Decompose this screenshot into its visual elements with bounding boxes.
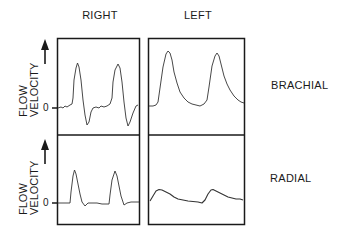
waveform-brachial-left bbox=[149, 51, 244, 106]
up-arrow-icon bbox=[41, 39, 49, 64]
waveform-radial-left bbox=[150, 190, 243, 204]
panel-frame-right bbox=[58, 39, 140, 225]
waveform-radial-right bbox=[58, 170, 139, 206]
waveform-figure bbox=[0, 0, 337, 237]
up-arrow-icon bbox=[41, 139, 49, 164]
waveform-brachial-right bbox=[58, 63, 138, 126]
